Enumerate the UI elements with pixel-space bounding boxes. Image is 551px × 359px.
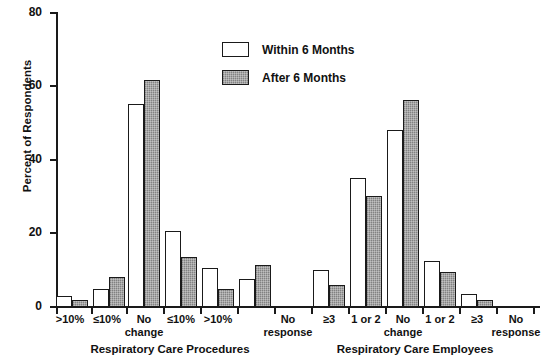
bar-gte3-dec-within-6-months [461, 294, 477, 307]
bar-gt10-dec-after-6-months [218, 289, 234, 307]
bar-no-change-2-after-6-months [403, 100, 419, 307]
bar-lte10-dec-within-6-months [165, 231, 181, 307]
bar-gte3-dec-after-6-months [477, 300, 493, 307]
bar-no-response-1-within-6-months [239, 279, 255, 307]
bar-1or2-dec-within-6-months [424, 261, 440, 307]
bar-gt10-inc-after-6-months [72, 300, 88, 307]
bar-lte10-dec-after-6-months [181, 257, 197, 307]
x-label-line2: change [115, 326, 173, 339]
bar-no-change-2-within-6-months [387, 130, 403, 307]
legend-item-after-6-months: After 6 Months [222, 70, 355, 85]
bar-gte3-inc-within-6-months [313, 270, 329, 307]
x-label-line2: response [485, 326, 547, 339]
bar-gt10-dec-within-6-months [202, 268, 218, 307]
bar-1or2-inc-within-6-months [350, 178, 366, 307]
bar-no-change-within-6-months [128, 104, 144, 307]
legend-swatch-white-icon [222, 42, 249, 57]
bar-lte10-inc-after-6-months [109, 277, 125, 307]
bar-no-change-after-6-months [144, 80, 160, 307]
x-label-group1-gt10-decrease: >10% [189, 313, 247, 326]
bar-chart: Percent of Respondents 0 20 40 60 80 >10… [0, 0, 551, 359]
legend: Within 6 Months After 6 Months [222, 42, 355, 98]
bar-gte3-inc-after-6-months [329, 285, 345, 307]
group-title-right: Respiratory Care Employees [305, 343, 525, 355]
bar-no-response-1-after-6-months [255, 265, 271, 307]
x-label-line2: response [258, 326, 318, 339]
x-label-line1: No [485, 313, 547, 326]
bar-lte10-inc-within-6-months [93, 289, 109, 307]
legend-item-within-6-months: Within 6 Months [222, 42, 355, 57]
legend-label-within-6-months: Within 6 Months [262, 43, 355, 57]
x-label-line2: change [374, 326, 432, 339]
x-label-line1: >10% [189, 313, 247, 326]
bar-1or2-dec-after-6-months [440, 272, 456, 307]
bar-gt10-inc-within-6-months [56, 296, 72, 307]
legend-swatch-gray-icon [222, 70, 249, 85]
group-title-left: Respiratory Care Procedures [60, 343, 280, 355]
x-label-group2-no-response: No response [485, 313, 547, 338]
bar-1or2-inc-after-6-months [366, 196, 382, 307]
legend-label-after-6-months: After 6 Months [262, 71, 346, 85]
